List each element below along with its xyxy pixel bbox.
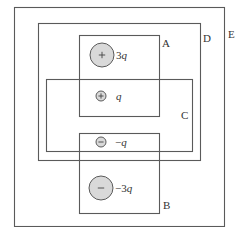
positive-charge-q1: 3q	[90, 43, 128, 67]
surface-c-label: C	[181, 109, 188, 121]
surface-a-boundary	[80, 36, 160, 117]
surface-a-label: A	[162, 37, 170, 49]
surface-b-label: B	[163, 199, 170, 211]
diagram-svg: EDACB3qq−q−3q	[0, 0, 244, 227]
surface-d-label: D	[203, 32, 211, 44]
charge-value-label: q	[116, 90, 122, 102]
negative-charge-q4: −3q	[89, 176, 133, 200]
gauss-surfaces-diagram: EDACB3qq−q−3q	[0, 0, 244, 227]
surface-e-label: E	[228, 28, 235, 40]
charge-value-label: 3q	[116, 49, 128, 61]
charge-value-label: −3q	[115, 182, 133, 194]
negative-charge-q3: −q	[96, 136, 127, 148]
positive-charge-q2: q	[96, 90, 122, 102]
charge-value-label: −q	[115, 136, 127, 148]
